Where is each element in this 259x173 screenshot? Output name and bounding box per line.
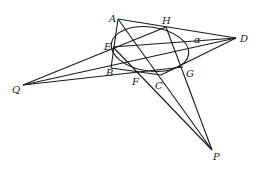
label-G: G (186, 68, 194, 79)
label-A: A (108, 13, 116, 24)
label-C: C (155, 80, 163, 91)
label-P: P (212, 151, 220, 162)
segment-EP (113, 47, 212, 150)
segment-QD (23, 38, 236, 85)
label-E: E (103, 41, 112, 52)
segment-AB (111, 19, 118, 68)
geometry-diagram: A H D E α B F C G Q P (0, 0, 259, 173)
conic-alpha (108, 22, 191, 76)
label-D: D (239, 33, 248, 44)
segment-HP (166, 27, 212, 150)
label-F: F (131, 76, 140, 87)
label-alpha: α (194, 34, 201, 45)
label-B: B (105, 67, 113, 78)
label-Q: Q (12, 84, 20, 95)
label-H: H (161, 15, 171, 26)
